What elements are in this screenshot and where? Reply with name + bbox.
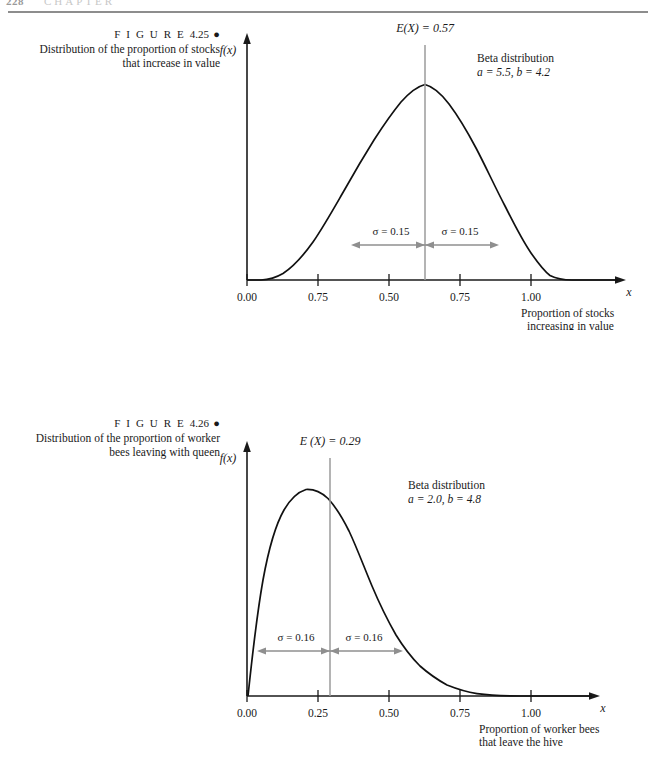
x-axis-title-line1-4-26: Proportion of worker bees — [479, 723, 600, 736]
tick-label-1: 0.75 — [308, 291, 328, 303]
beta-curve-4-26 — [248, 489, 592, 696]
tick-label-3: 0.75 — [450, 707, 470, 719]
tick-label-4: 1.00 — [521, 707, 541, 719]
sigma-right-label-4-26: σ = 0.16 — [346, 631, 383, 643]
figure-4-25-plot: 0.00 0.75 0.50 0.75 1.00 E(X) = 0.57 Bet… — [0, 0, 657, 330]
tick-label-0: 0.00 — [237, 707, 257, 719]
sigma-left-label-4-25: σ = 0.15 — [373, 225, 410, 237]
distribution-name-4-25: Beta distribution — [477, 52, 554, 64]
tick-label-4: 1.00 — [521, 291, 541, 303]
y-axis-4-26 — [243, 441, 251, 696]
tick-label-2: 0.50 — [379, 707, 399, 719]
tick-label-0: 0.00 — [237, 291, 257, 303]
x-axis-title-line2-4-26: that leave the hive — [479, 736, 563, 748]
tick-label-3: 0.75 — [450, 291, 470, 303]
sigma-right-arrow-4-25 — [425, 242, 499, 249]
sigma-left-label-4-26: σ = 0.16 — [278, 631, 315, 643]
distribution-params-4-26: a = 2.0, b = 4.8 — [408, 493, 481, 506]
tick-label-2: 0.50 — [379, 291, 399, 303]
distribution-params-4-25: a = 5.5, b = 4.2 — [477, 66, 550, 79]
mean-label-4-26: E (X) = 0.29 — [299, 434, 361, 448]
x-axis-title-line2-4-25: increasing in value — [527, 320, 614, 330]
y-axis-label-4-26: f(x) — [220, 451, 237, 465]
sigma-right-label-4-25: σ = 0.15 — [442, 225, 479, 237]
y-axis-label-4-25: f(x) — [220, 43, 237, 57]
sigma-left-arrow-4-26 — [257, 648, 330, 655]
sigma-left-arrow-4-25 — [351, 242, 425, 249]
figure-4-26-plot: 0.00 0.25 0.50 0.75 1.00 E (X) = 0.29 Be… — [0, 400, 657, 764]
sigma-right-arrow-4-26 — [330, 648, 403, 655]
mean-label-4-25: E(X) = 0.57 — [395, 21, 455, 35]
x-axis-label-4-25: x — [625, 285, 632, 299]
x-axis-label-4-26: x — [599, 701, 606, 715]
tick-label-1: 0.25 — [308, 707, 328, 719]
distribution-name-4-26: Beta distribution — [408, 479, 485, 491]
y-axis-4-25 — [243, 33, 251, 280]
beta-curve-4-25 — [247, 85, 618, 281]
x-axis-title-line1-4-25: Proportion of stocks — [521, 307, 615, 320]
